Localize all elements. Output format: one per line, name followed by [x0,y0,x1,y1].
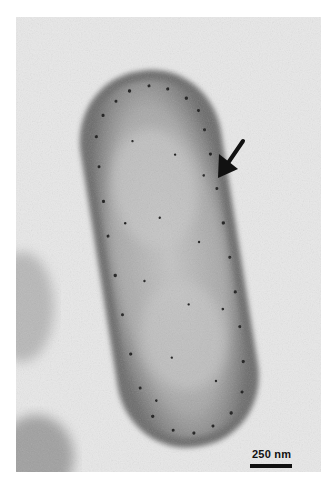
micrograph-image: 250 nm [16,17,321,472]
scale-bar [250,464,292,468]
scale-bar-label: 250 nm [252,448,291,460]
micrograph-drawing [16,17,321,472]
